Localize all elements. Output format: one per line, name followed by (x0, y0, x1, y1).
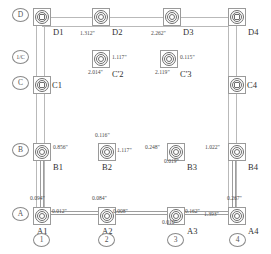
column-label: C'3 (180, 70, 191, 79)
column-marker-b1[interactable] (33, 143, 51, 161)
dimension-label: 0.008" (113, 209, 128, 215)
column-label: D2 (112, 28, 122, 37)
column-ring-icon (166, 56, 172, 62)
column-ring-icon (104, 213, 110, 219)
column-marker-b4[interactable] (228, 143, 246, 161)
column-ring-icon (173, 149, 179, 155)
dimension-label: 0.248" (145, 145, 160, 151)
column-label: D4 (248, 28, 258, 37)
grid-bubble-4[interactable]: 4 (229, 233, 246, 247)
column-label: B4 (248, 163, 258, 172)
grid-line (42, 26, 229, 27)
dimension-label: 0.856" (53, 145, 68, 151)
column-ring-icon (39, 14, 45, 20)
dimension-label: 0.084" (92, 196, 107, 202)
column-label: C'2 (112, 70, 123, 79)
dimension-label: 1.312" (80, 31, 95, 37)
dimension-label: 2.014" (88, 70, 103, 76)
grid-line (44, 26, 45, 207)
column-ring-icon (234, 213, 240, 219)
dimension-label: 0.019" (164, 159, 179, 165)
grid-line (236, 26, 237, 207)
column-marker-d1[interactable] (33, 8, 51, 26)
column-label: B2 (102, 163, 112, 172)
grid-bubble-1-c[interactable]: 1/C (12, 50, 29, 64)
grid-line (42, 17, 229, 18)
dimension-label: 0.116" (95, 133, 110, 139)
dimension-label: 2.119" (155, 70, 170, 76)
column-marker-d4[interactable] (228, 8, 246, 26)
column-marker-d2[interactable] (92, 8, 110, 26)
dimension-label: 0.115" (180, 55, 195, 61)
column-label: B3 (187, 163, 197, 172)
column-ring-icon (39, 149, 45, 155)
grid-bubble-d[interactable]: D (12, 8, 29, 22)
column-ring-icon (234, 149, 240, 155)
column-marker-cp2[interactable] (92, 50, 110, 68)
column-label: A4 (248, 227, 258, 236)
column-ring-icon (98, 14, 104, 20)
column-marker-d3[interactable] (163, 8, 181, 26)
grid-line (228, 26, 229, 207)
dimension-label: 0.267" (227, 196, 242, 202)
column-label: C4 (247, 81, 257, 90)
dimension-label: 0.010" (162, 220, 177, 226)
grid-bubble-a[interactable]: A (12, 207, 29, 221)
column-marker-c4[interactable] (228, 76, 246, 94)
column-marker-b2[interactable] (98, 143, 116, 161)
grid-bubble-c[interactable]: C (12, 76, 29, 90)
column-marker-cp3[interactable] (160, 50, 178, 68)
measurement-line (42, 214, 229, 215)
dimension-label: 2.262" (151, 31, 166, 37)
column-ring-icon (39, 82, 45, 88)
column-ring-icon (169, 14, 175, 20)
column-label: D3 (183, 28, 193, 37)
dimension-label: 1.117" (112, 55, 127, 61)
column-label: A3 (187, 227, 197, 236)
column-marker-a1[interactable] (33, 207, 51, 225)
measurement-line (42, 211, 229, 212)
column-label: C1 (52, 81, 62, 90)
dimension-label: 1.117" (117, 148, 132, 154)
grid-bubble-1[interactable]: 1 (33, 233, 50, 247)
dimension-label: 0.094" (30, 196, 45, 202)
column-label: B1 (53, 163, 63, 172)
column-ring-icon (104, 149, 110, 155)
column-ring-icon (98, 56, 104, 62)
grid-bubble-3[interactable]: 3 (167, 233, 184, 247)
dimension-label: 1.022" (205, 145, 220, 151)
drawing-canvas: D1D2D3D4C'2C'3C1C4B1B2B3B4A1A2A3A4 D1/CC… (0, 0, 271, 254)
column-ring-icon (39, 213, 45, 219)
grid-line (36, 26, 37, 207)
column-ring-icon (234, 82, 240, 88)
column-marker-c1[interactable] (33, 76, 51, 94)
grid-bubble-2[interactable]: 2 (98, 233, 115, 247)
dimension-label: 1.393" (204, 212, 219, 218)
column-label: D1 (53, 28, 63, 37)
column-marker-a4[interactable] (228, 207, 246, 225)
dimension-label: 0.012" (52, 209, 67, 215)
grid-bubble-b[interactable]: B (12, 143, 29, 157)
column-ring-icon (234, 14, 240, 20)
dimension-label: 0.162" (185, 209, 200, 215)
